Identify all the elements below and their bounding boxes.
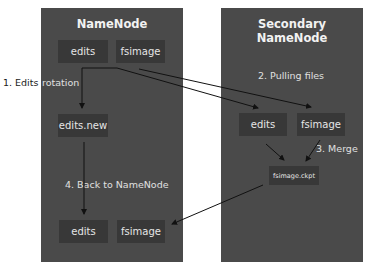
arrow-back-to-namenode — [172, 185, 263, 224]
arrows-layer — [0, 0, 370, 269]
arrow-merge-fsimage — [306, 140, 320, 161]
arrow-merge-edits — [266, 144, 284, 160]
arrow-pull-edits — [82, 68, 258, 108]
arrow-pull-fsimage — [139, 69, 311, 107]
